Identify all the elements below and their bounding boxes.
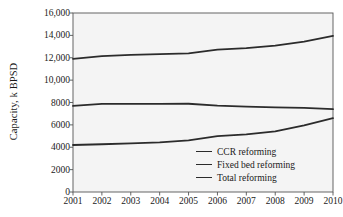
x-tick-label: 2007 — [237, 196, 256, 206]
legend-item-total-reforming: Total reforming — [196, 171, 295, 184]
legend-item-ccr-reforming: CCR reforming — [196, 145, 295, 158]
x-tick-label: 2002 — [92, 196, 111, 206]
x-tick-label: 2008 — [266, 196, 285, 206]
x-tick-label: 2001 — [64, 196, 83, 206]
legend-item-fixed-bed-reforming: Fixed bed reforming — [196, 158, 295, 171]
legend-label: Total reforming — [217, 173, 277, 183]
chart-figure: Capacity, k BPSD 0200040006000800010,000… — [0, 0, 343, 217]
plot-area — [0, 0, 343, 217]
legend-line-icon — [196, 177, 212, 178]
x-tick-label: 2005 — [179, 196, 198, 206]
x-tick-label: 2006 — [208, 196, 227, 206]
x-tick-label: 2004 — [150, 196, 169, 206]
legend-label: CCR reforming — [217, 147, 276, 157]
legend-label: Fixed bed reforming — [217, 160, 295, 170]
chart-legend: CCR reforming Fixed bed reforming Total … — [196, 145, 295, 184]
legend-line-icon — [196, 151, 212, 152]
legend-line-icon — [196, 164, 212, 165]
x-tick-label: 2003 — [121, 196, 140, 206]
x-tick-label: 2010 — [324, 196, 343, 206]
x-tick-label: 2009 — [295, 196, 314, 206]
